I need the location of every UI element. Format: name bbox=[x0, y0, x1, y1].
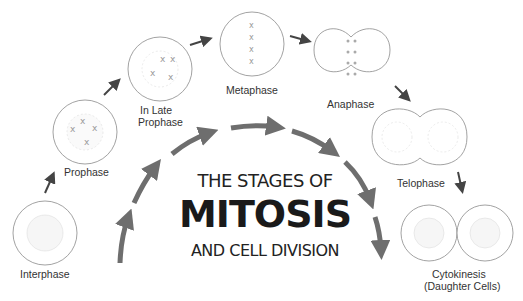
telophase-cell bbox=[372, 109, 467, 165]
svg-text:x: x bbox=[170, 54, 176, 64]
anaphase-cell bbox=[314, 29, 390, 76]
label-late-prophase-1: In Late bbox=[140, 104, 172, 116]
svg-text:x: x bbox=[80, 116, 86, 126]
svg-text:x: x bbox=[168, 72, 174, 82]
svg-text:x: x bbox=[70, 124, 76, 134]
label-cytokinesis-1: Cytokinesis bbox=[432, 268, 486, 280]
label-cytokinesis-2: (Daughter Cells) bbox=[424, 280, 500, 292]
cytokinesis-cells bbox=[401, 205, 513, 261]
label-telophase: Telophase bbox=[397, 177, 445, 189]
svg-text:x: x bbox=[249, 21, 254, 30]
svg-text:x: x bbox=[160, 54, 166, 64]
label-prophase: Prophase bbox=[64, 166, 109, 178]
title-line-3: AND CELL DIVISION bbox=[160, 241, 370, 260]
svg-text:x: x bbox=[249, 57, 254, 66]
label-interphase: Interphase bbox=[20, 268, 70, 280]
svg-text:x: x bbox=[249, 45, 254, 54]
svg-text:x: x bbox=[150, 68, 156, 78]
label-metaphase: Metaphase bbox=[226, 84, 278, 96]
label-anaphase: Anaphase bbox=[327, 98, 374, 110]
title-line-1: THE STAGES OF bbox=[170, 170, 360, 191]
prophase-cell: x x x x bbox=[53, 100, 117, 164]
title-line-2: MITOSIS bbox=[170, 192, 360, 236]
late-prophase-cell: x x x x bbox=[128, 37, 192, 101]
svg-text:x: x bbox=[92, 123, 98, 133]
metaphase-cell: x x x x bbox=[220, 12, 284, 76]
interphase-cell bbox=[13, 201, 77, 265]
svg-text:x: x bbox=[84, 137, 90, 147]
label-late-prophase-2: Prophase bbox=[138, 116, 183, 128]
svg-text:x: x bbox=[249, 33, 254, 42]
